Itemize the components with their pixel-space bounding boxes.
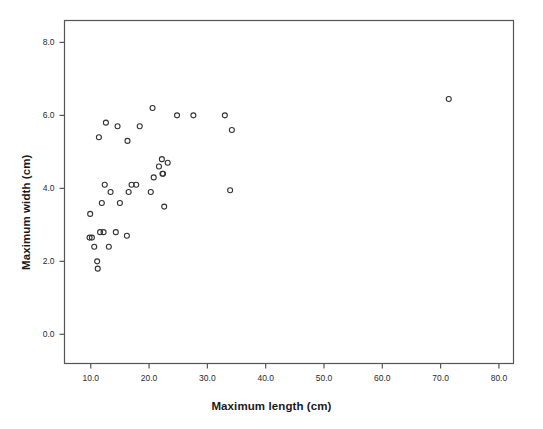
y-axis-tick-label: 6.0 [25, 110, 55, 120]
data-point-marker [151, 175, 156, 180]
data-point-marker [126, 190, 131, 195]
plot-canvas [0, 0, 543, 429]
data-point-marker [148, 190, 153, 195]
x-axis-tick-label: 10.0 [82, 373, 99, 383]
data-point-marker [156, 164, 161, 169]
data-point-marker [165, 160, 170, 165]
plot-border [65, 21, 514, 364]
data-point-marker [162, 204, 167, 209]
data-point-group [87, 96, 451, 271]
x-axis-title: Maximum length (cm) [0, 400, 543, 412]
x-axis-tick-label: 70.0 [432, 373, 449, 383]
data-point-marker [191, 113, 196, 118]
data-point-marker [113, 230, 118, 235]
x-axis-tick-label: 30.0 [199, 373, 216, 383]
x-axis-tick-label: 40.0 [257, 373, 274, 383]
data-point-marker [228, 188, 233, 193]
x-axis-tick-label: 20.0 [141, 373, 158, 383]
data-point-marker [159, 157, 164, 162]
data-point-marker [88, 211, 93, 216]
data-point-marker [101, 230, 106, 235]
data-point-marker [446, 96, 451, 101]
y-axis-tick-label: 0.0 [25, 329, 55, 339]
data-point-marker [137, 124, 142, 129]
data-point-marker [117, 200, 122, 205]
data-point-marker [99, 200, 104, 205]
data-point-marker [108, 190, 113, 195]
data-point-marker [175, 113, 180, 118]
x-axis-tick-label: 80.0 [491, 373, 508, 383]
x-axis-tick-label: 50.0 [316, 373, 333, 383]
axis-tick-marks [60, 42, 499, 368]
data-point-marker [229, 127, 234, 132]
data-point-marker [103, 120, 108, 125]
data-point-marker [92, 244, 97, 249]
data-point-marker [106, 244, 111, 249]
data-point-marker [102, 182, 107, 187]
scatter-plot-figure: 0.02.04.06.08.0 10.020.030.040.050.060.0… [0, 0, 543, 429]
data-point-marker [222, 113, 227, 118]
y-axis-tick-label: 8.0 [25, 37, 55, 47]
data-point-marker [95, 266, 100, 271]
data-point-marker [95, 259, 100, 264]
x-axis-tick-label: 60.0 [374, 373, 391, 383]
plot-frame [65, 21, 514, 364]
data-point-marker [150, 106, 155, 111]
data-point-marker [124, 233, 129, 238]
data-point-marker [96, 135, 101, 140]
data-point-marker [125, 138, 130, 143]
y-axis-title: Maximum width (cm) [20, 154, 32, 270]
data-point-marker [115, 124, 120, 129]
